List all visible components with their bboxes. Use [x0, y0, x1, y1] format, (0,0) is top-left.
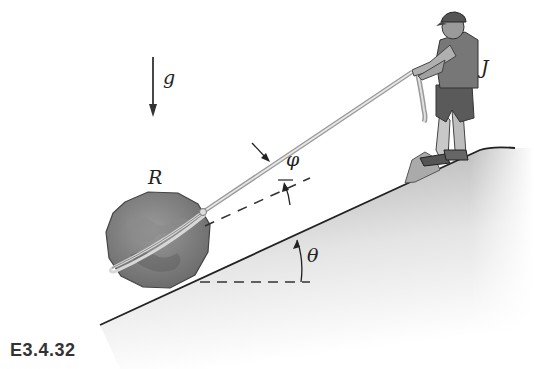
incline-diagram [0, 0, 534, 369]
theta-label: θ [307, 246, 318, 265]
person-label: J [481, 58, 489, 77]
rope-knot [200, 209, 207, 216]
gravity-label: g [163, 68, 175, 87]
rock [106, 192, 210, 288]
figure-caption: E3.4.32 [10, 340, 76, 361]
gravity-arrow [149, 57, 157, 117]
phi-label: φ [286, 150, 299, 169]
rock-label: R [148, 168, 162, 187]
